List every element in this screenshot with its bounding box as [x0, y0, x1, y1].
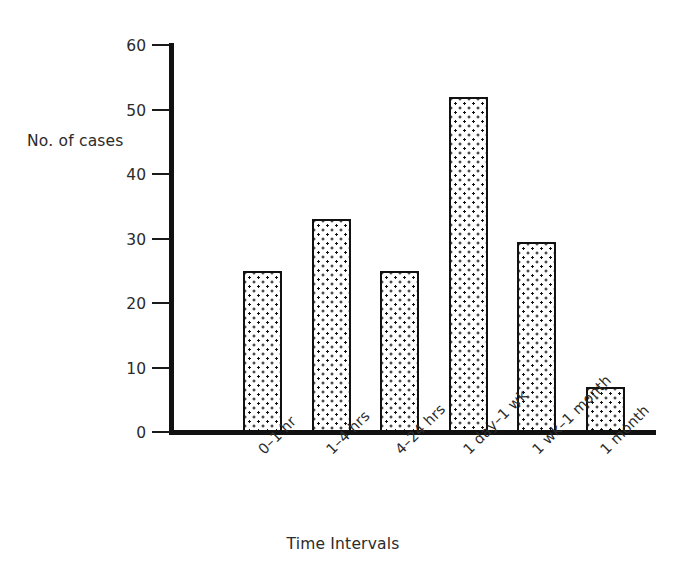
y-tick-mark — [152, 431, 170, 433]
y-tick-label: 20 — [126, 295, 146, 313]
y-tick-mark — [152, 302, 170, 304]
bar — [449, 97, 488, 432]
y-tick-label: 10 — [126, 360, 146, 378]
bar-chart-figure: No. of cases 0102030405060 0–1 hr1–4 hrs… — [0, 0, 686, 581]
bar — [243, 271, 282, 432]
y-tick-label: 50 — [126, 102, 146, 120]
y-tick-mark — [152, 238, 170, 240]
y-tick-label: 40 — [126, 166, 146, 184]
y-tick-label: 60 — [126, 37, 146, 55]
y-tick-mark — [152, 44, 170, 46]
bar — [312, 219, 351, 432]
plot-area: 0102030405060 0–1 hr1–4 hrs4–24 hrs1 day… — [0, 0, 686, 581]
y-tick-label: 30 — [126, 231, 146, 249]
x-axis-title: Time Intervals — [0, 535, 686, 553]
y-tick-mark — [152, 173, 170, 175]
bar — [380, 271, 419, 432]
y-tick-mark — [152, 367, 170, 369]
y-tick-mark — [152, 109, 170, 111]
y-tick-label: 0 — [136, 424, 146, 442]
